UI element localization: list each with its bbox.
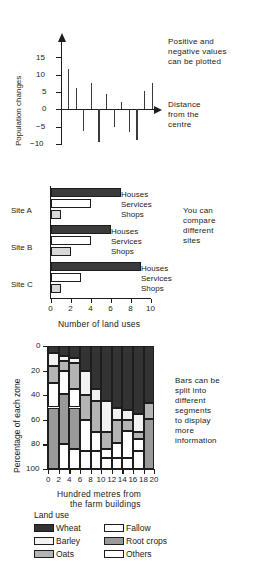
- chart1-spike: [144, 91, 145, 109]
- chart2-xtick-label: 2: [68, 305, 72, 313]
- chart1-xlabel-line1: Distance: [168, 100, 201, 110]
- chart3-segment-others: [80, 451, 91, 469]
- chart3-annotation-line4: segments: [175, 406, 211, 416]
- chart1-ytick-label-neg10: −10: [30, 140, 44, 148]
- chart1-spike: [98, 109, 99, 142]
- chart3-xtick: [59, 470, 60, 474]
- land-use-by-distance-chart: Percentage of each zone 020406080100 024…: [0, 340, 253, 564]
- chart3-xtick-label: 10: [97, 476, 106, 484]
- chart2-key-c-services: Services: [141, 274, 172, 284]
- chart1-spike: [83, 109, 84, 130]
- chart1-spike: [114, 109, 115, 127]
- chart3-xtick-label: 4: [67, 476, 71, 484]
- chart3-segment-fallow: [91, 432, 102, 450]
- chart2-xtick: [151, 299, 152, 303]
- chart3-xtick-label: 16: [128, 476, 137, 484]
- chart3-ytick-label: 100: [26, 465, 39, 473]
- chart3-xtick-label: 6: [78, 476, 82, 484]
- chart2-annotation-line4: sites: [183, 236, 200, 246]
- chart1-spike: [106, 94, 107, 110]
- chart3-legend-label-fallow: Fallow: [126, 524, 151, 533]
- chart3-stacked-bar: [101, 346, 112, 469]
- chart3-segment-oats: [122, 420, 133, 431]
- chart3-segment-fallow: [69, 389, 80, 407]
- chart2-bar: [51, 273, 81, 282]
- chart3-segment-oats: [144, 403, 155, 419]
- chart3-segment-barley: [48, 353, 59, 365]
- chart3-segment-barley: [80, 371, 91, 396]
- chart3-xtick: [133, 470, 134, 474]
- chart3-segment-root-crops: [144, 419, 155, 469]
- chart3-ytick-label: 40: [31, 391, 40, 399]
- chart1-y-axis-label: Population changes: [14, 76, 23, 146]
- chart3-annotation-line3: different: [175, 396, 206, 406]
- chart1-ytick-label-10: 10: [36, 71, 45, 79]
- chart3-segment-oats: [101, 432, 112, 449]
- chart1-ytick: [56, 92, 61, 93]
- chart3-xtick-label: 8: [88, 476, 92, 484]
- chart3-legend-swatch-oats: [34, 550, 54, 558]
- chart1-xlabel-line3: centre: [168, 120, 191, 130]
- chart1-spike: [91, 83, 92, 109]
- chart3-segment-fallow: [101, 449, 112, 458]
- chart3-segment-wheat: [80, 346, 91, 371]
- chart1-spike: [121, 102, 122, 109]
- land-use-by-site-chart: Site A Site B Site C Houses Services Sho…: [0, 178, 253, 340]
- chart3-legend-label-barley: Barley: [56, 537, 80, 546]
- chart3-legend-label-others: Others: [126, 550, 152, 559]
- chart2-group-label-site-a: Site A: [11, 206, 32, 215]
- chart3-ytick-label: 80: [31, 440, 40, 448]
- chart3-x-axis-label-line2: the farm buildings: [70, 500, 141, 510]
- chart3-segment-oats: [48, 366, 59, 383]
- chart3-xtick: [112, 470, 113, 474]
- chart3-stacked-bar: [122, 346, 133, 469]
- chart3-segment-oats: [69, 363, 80, 389]
- chart3-stacked-bar: [91, 346, 102, 469]
- chart3-xtick: [154, 470, 155, 474]
- chart3-segment-wheat: [133, 346, 144, 414]
- chart3-annotation-line7: information: [175, 436, 217, 446]
- chart3-stacked-bar: [69, 346, 80, 469]
- chart3-annotation-line5: to display: [175, 416, 211, 426]
- chart3-xtick-label: 14: [118, 476, 127, 484]
- chart3-legend-swatch-others: [104, 550, 124, 558]
- chart2-x-axis-label: Number of land uses: [58, 320, 140, 330]
- chart3-segment-others: [69, 449, 80, 469]
- chart3-stacked-bar: [48, 346, 59, 469]
- chart3-xtick: [48, 470, 49, 474]
- chart3-legend-swatch-wheat: [34, 524, 54, 532]
- chart2-key-b-houses: Houses: [111, 227, 138, 237]
- chart3-segment-oats: [59, 361, 70, 371]
- chart1-ytick: [56, 75, 61, 76]
- chart3-stacked-bars: [48, 346, 154, 469]
- chart3-stacked-bar: [80, 346, 91, 469]
- chart2-key-a-services: Services: [121, 200, 152, 210]
- chart2-bar: [51, 199, 91, 208]
- chart1-y-axis: [61, 41, 62, 145]
- chart2-xtick: [91, 299, 92, 303]
- chart2-key-c-houses: Houses: [141, 264, 168, 274]
- chart3-segment-wheat: [144, 346, 155, 403]
- chart3-segment-root-crops: [69, 408, 80, 450]
- chart3-segment-others: [91, 451, 102, 469]
- chart2-bar: [51, 236, 91, 245]
- chart2-xtick: [71, 299, 72, 303]
- chart1-y-axis-arrow: [58, 33, 66, 42]
- chart3-annotation-line6: more: [175, 426, 194, 436]
- chart3-xtick: [144, 470, 145, 474]
- chart3-legend-label-oats: Oats: [56, 550, 74, 559]
- chart3-segment-others: [133, 451, 144, 469]
- chart3-segment-root-crops: [59, 394, 70, 444]
- chart3-segment-oats: [133, 432, 144, 439]
- chart1-spike: [129, 109, 130, 132]
- chart3-segment-fallow: [48, 383, 59, 408]
- chart3-segment-wheat: [48, 346, 59, 353]
- chart2-bar: [51, 284, 61, 293]
- chart3-segment-barley: [112, 408, 123, 420]
- chart3-xtick: [101, 470, 102, 474]
- chart3-ytick-label: 20: [31, 367, 40, 375]
- chart2-bar: [51, 262, 141, 271]
- chart3-ytick-label: 0: [36, 342, 40, 350]
- chart3-segment-fallow: [112, 443, 123, 458]
- chart3-segment-fallow: [133, 439, 144, 450]
